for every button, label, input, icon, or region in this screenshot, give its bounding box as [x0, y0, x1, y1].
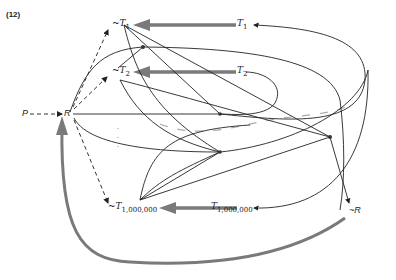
node-not-tn: ~T1,000,000	[108, 201, 157, 214]
node-not-r: ~R	[349, 205, 361, 215]
node-t2: T2	[237, 65, 247, 78]
node-t1: T1	[237, 18, 247, 31]
junction-nodes	[141, 45, 332, 154]
faded-lines	[118, 105, 350, 150]
thick-arrows	[56, 19, 345, 263]
node-not-t1: ~T1	[112, 18, 130, 31]
node-tn: T1,000,000	[211, 201, 253, 214]
node-p: P	[22, 108, 28, 118]
thin-lines	[70, 25, 368, 210]
diagram-canvas	[0, 0, 396, 280]
node-not-t2: ~T2	[112, 65, 130, 78]
node-r: R	[64, 108, 71, 118]
diagram: (12) P R ~R ~T1 ~T2 ~T1,000,000 T1 T2 T1…	[0, 0, 396, 280]
figure-number: (12)	[6, 10, 20, 19]
